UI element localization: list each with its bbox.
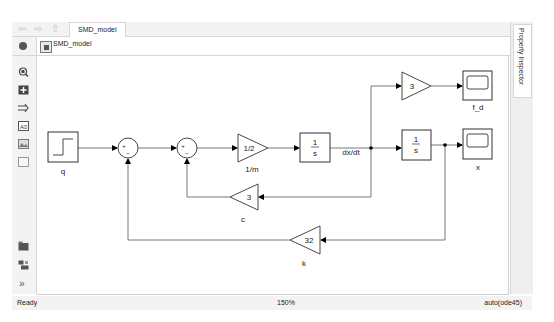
hide-model-browser-icon — [19, 42, 27, 50]
svg-text:+: + — [122, 143, 126, 149]
step-block-q[interactable] — [48, 132, 78, 162]
gain-block-c[interactable]: 3 — [230, 184, 258, 210]
svg-text:s: s — [414, 146, 418, 155]
zoom-to-fit-icon[interactable] — [18, 67, 29, 77]
svg-text:−: − — [126, 150, 130, 156]
hierarchy-icon[interactable] — [18, 260, 29, 270]
sum-block-1[interactable]: + − — [118, 138, 138, 158]
svg-text:1/2: 1/2 — [243, 144, 255, 153]
block-diagram: q + − + − 1/2 1/m 1 — [37, 56, 508, 294]
hide-browser-button[interactable] — [12, 37, 37, 55]
svg-text:1: 1 — [313, 138, 318, 147]
status-bar: Ready 150% auto(ode45) — [12, 296, 532, 310]
up-to-parent-icon[interactable]: ⇧ — [51, 23, 59, 34]
gain-block-k[interactable]: 32 — [290, 226, 320, 254]
zoom-level[interactable]: 150% — [277, 296, 295, 310]
branch-point-x — [443, 143, 447, 147]
property-inspector-tab[interactable]: Property Inspector — [513, 24, 532, 98]
status-state: Ready — [17, 296, 37, 310]
block-diagram-palette: A≡ » — [12, 56, 37, 294]
tab-smd-model[interactable]: SMD_model — [69, 22, 126, 37]
model-canvas[interactable]: q + − + − 1/2 1/m 1 — [37, 56, 509, 295]
signal-line-c-to-sum2 — [187, 159, 230, 197]
area-icon[interactable] — [18, 157, 29, 167]
simulink-window: ⇦ ⇨ ⇧ SMD_model SMD_model ▼ A≡ — [0, 0, 554, 322]
signal-line-to-fd-gain — [371, 86, 401, 148]
scope-block-x[interactable] — [463, 129, 492, 159]
forward-arrow-icon[interactable]: ⇨ — [34, 23, 42, 34]
tab-bar: ⇦ ⇨ ⇧ SMD_model — [12, 22, 532, 37]
model-icon — [40, 41, 52, 53]
branch-point-velocity — [369, 146, 373, 150]
scope-x-label: x — [476, 163, 480, 172]
signal-line-k-to-sum1 — [128, 159, 290, 240]
model-browser-icon[interactable] — [18, 241, 29, 251]
svg-text:1: 1 — [414, 135, 419, 144]
integrator-block-1[interactable]: 1 s — [300, 133, 330, 162]
breadcrumb[interactable]: SMD_model — [53, 40, 92, 47]
gain-block-fd[interactable]: 3 — [402, 72, 431, 100]
svg-text:s: s — [313, 149, 317, 158]
svg-text:+: + — [181, 143, 185, 149]
gain-k-label: k — [302, 259, 307, 268]
back-arrow-icon[interactable]: ⇦ — [18, 23, 26, 34]
gain-m-label: 1/m — [245, 165, 259, 174]
scope-block-fd[interactable] — [463, 71, 492, 100]
svg-text:−: − — [185, 150, 189, 156]
image-icon[interactable] — [18, 139, 29, 149]
solver-status[interactable]: auto(ode45) — [484, 296, 522, 310]
arrow-shortcut-icon[interactable] — [18, 103, 29, 113]
fit-to-view-icon[interactable] — [18, 85, 29, 95]
svg-text:A≡: A≡ — [20, 124, 28, 130]
signal-label-velocity: dx/dt — [342, 148, 360, 157]
sum-block-2[interactable]: + − — [177, 138, 197, 158]
step-label: q — [61, 167, 65, 176]
svg-text:32: 32 — [305, 236, 314, 245]
scope-fd-label: f_d — [472, 103, 483, 112]
integrator-block-2[interactable]: 1 s — [402, 130, 431, 160]
address-bar: SMD_model ▼ — [12, 37, 532, 56]
gain-c-label: c — [241, 215, 245, 224]
property-inspector-panel: Property Inspector — [510, 22, 533, 294]
expand-palette-icon[interactable]: » — [19, 278, 30, 288]
annotation-icon[interactable]: A≡ — [18, 121, 29, 131]
svg-text:3: 3 — [410, 82, 415, 91]
gain-block-1-over-m[interactable]: 1/2 — [238, 134, 268, 162]
svg-text:3: 3 — [247, 193, 252, 202]
